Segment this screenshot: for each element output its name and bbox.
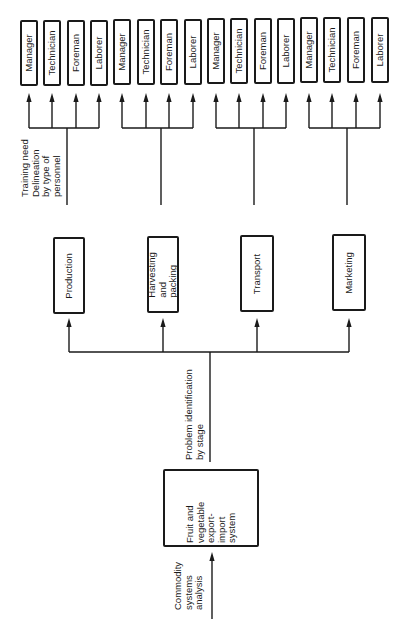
personnel-box-foreman: Foreman xyxy=(254,18,272,84)
arrowhead-icon xyxy=(143,93,148,102)
commodity-analysis-label: Commodity systems analysis xyxy=(173,562,205,610)
personnel-label: Manager xyxy=(304,31,315,69)
stage-label: Production xyxy=(64,253,75,298)
stage-box-harvesting: Harvesting and packing xyxy=(147,236,179,313)
stage-box-production: Production xyxy=(53,237,85,314)
arrowhead-icon xyxy=(260,93,265,102)
arrowhead-icon xyxy=(119,93,124,102)
arrowhead-icon xyxy=(353,93,358,102)
arrowhead-icon xyxy=(377,93,382,102)
personnel-box-manager: Manager xyxy=(20,20,38,86)
connector-lines xyxy=(0,0,397,644)
stage-box-marketing: Marketing xyxy=(332,234,366,311)
personnel-label: Foreman xyxy=(258,32,269,70)
arrowhead-icon xyxy=(26,93,31,102)
arrowhead-icon xyxy=(209,552,214,561)
stage-label: Transport xyxy=(252,253,263,293)
personnel-box-laborer: Laborer xyxy=(277,18,295,84)
commodity-systems-diagram: Fruit and vegetable export- import syste… xyxy=(0,0,397,644)
personnel-label: Manager xyxy=(211,32,222,70)
problem-identification-label: Problem identification by stage xyxy=(184,369,205,460)
arrowhead-icon xyxy=(160,318,165,327)
root-system-label: Fruit and vegetable export- import syste… xyxy=(185,473,238,543)
arrowhead-icon xyxy=(166,93,171,102)
personnel-label: Laborer xyxy=(94,37,105,70)
personnel-box-technician: Technician xyxy=(43,20,61,86)
personnel-box-manager: Manager xyxy=(207,18,225,84)
personnel-box-manager: Manager xyxy=(300,17,318,83)
personnel-box-foreman: Foreman xyxy=(160,19,178,85)
root-system-box: Fruit and vegetable export- import syste… xyxy=(163,469,259,547)
personnel-box-foreman: Foreman xyxy=(347,17,365,83)
personnel-label: Laborer xyxy=(375,34,386,67)
arrowhead-icon xyxy=(346,318,351,327)
personnel-box-technician: Technician xyxy=(323,17,341,83)
personnel-label: Laborer xyxy=(188,36,199,69)
personnel-box-laborer: Laborer xyxy=(371,17,389,83)
arrowhead-icon xyxy=(329,93,334,102)
personnel-box-technician: Technician xyxy=(230,18,248,84)
personnel-box-technician: Technician xyxy=(137,19,155,85)
personnel-label: Technician xyxy=(47,31,58,76)
personnel-label: Laborer xyxy=(281,35,292,68)
personnel-box-laborer: Laborer xyxy=(184,19,202,85)
personnel-box-laborer: Laborer xyxy=(90,20,108,86)
arrowhead-icon xyxy=(236,93,241,102)
stage-label: Marketing xyxy=(344,252,355,294)
stage-box-transport: Transport xyxy=(240,235,274,312)
arrowhead-icon xyxy=(96,93,101,102)
arrowhead-icon xyxy=(66,318,71,327)
personnel-label: Foreman xyxy=(351,31,362,69)
personnel-label: Technician xyxy=(234,29,245,74)
personnel-label: Foreman xyxy=(164,33,175,71)
stage-label: Harvesting and packing xyxy=(147,252,179,297)
personnel-label: Manager xyxy=(24,34,35,72)
personnel-label: Foreman xyxy=(71,34,82,72)
arrowhead-icon xyxy=(254,318,259,327)
personnel-box-manager: Manager xyxy=(113,19,131,85)
arrowhead-icon xyxy=(190,93,195,102)
training-need-label: Training need Delineation by type of per… xyxy=(20,139,62,197)
arrowhead-icon xyxy=(213,93,218,102)
personnel-label: Technician xyxy=(327,28,338,73)
arrowhead-icon xyxy=(283,93,288,102)
arrowhead-icon xyxy=(73,93,78,102)
arrowhead-icon xyxy=(49,93,54,102)
personnel-label: Technician xyxy=(141,30,152,75)
personnel-label: Manager xyxy=(117,33,128,71)
arrowhead-icon xyxy=(306,93,311,102)
personnel-box-foreman: Foreman xyxy=(67,20,85,86)
